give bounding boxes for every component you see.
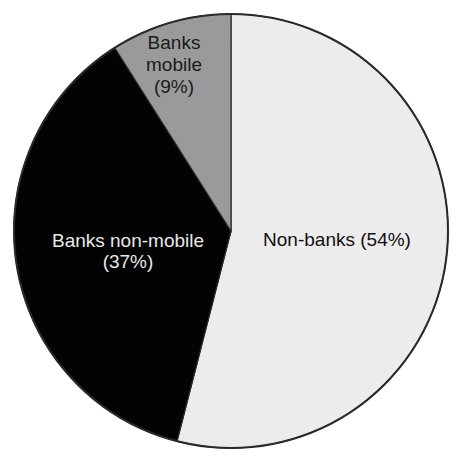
label-banks-mobile-pct: (9%)	[154, 76, 194, 97]
label-banks-non-mobile-pct: (37%)	[103, 251, 154, 272]
pie-chart: Non-banks (54%) Banks non-mobile (37%) B…	[0, 0, 456, 462]
label-banks-mobile-2: mobile	[146, 54, 202, 75]
label-banks-non-mobile: Banks non-mobile	[52, 230, 204, 251]
label-non-banks: Non-banks (54%)	[263, 229, 411, 250]
label-banks-mobile-1: Banks	[148, 32, 201, 53]
